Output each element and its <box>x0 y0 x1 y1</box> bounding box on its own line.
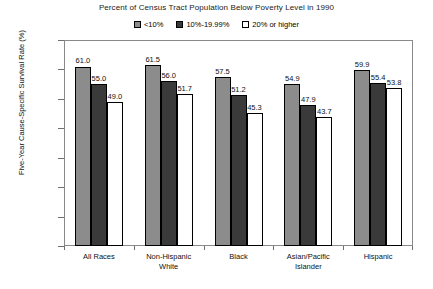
x-category-label-line: Asian/Pacific <box>269 252 347 262</box>
legend-label-20-or-higher: 20% or higher <box>252 20 299 29</box>
bar <box>284 84 300 246</box>
legend-item-20-or-higher: 20% or higher <box>242 20 299 29</box>
bar-value-label: 59.9 <box>349 60 375 69</box>
legend-label-10-to-19: 10%-19.99% <box>186 20 229 29</box>
x-category-label-line: Black <box>200 252 278 262</box>
bar-value-label: 45.3 <box>242 103 268 112</box>
bar-value-label: 51.2 <box>226 85 252 94</box>
bar-value-label: 54.9 <box>279 74 305 83</box>
x-category-label: Non-HispanicWhite <box>130 252 208 272</box>
bar <box>75 67 91 247</box>
x-tick-mark <box>204 246 205 250</box>
bar-value-label: 43.7 <box>311 107 337 116</box>
bar-value-label: 53.8 <box>381 78 407 87</box>
bar-group: 61.556.051.7 <box>145 40 193 246</box>
chart-legend: <10% 10%-19.99% 20% or higher <box>0 20 433 29</box>
bar <box>354 70 370 246</box>
x-axis-ticks <box>64 246 413 251</box>
bar <box>370 83 386 246</box>
bar <box>247 113 263 246</box>
bar <box>161 81 177 246</box>
bar <box>145 65 161 246</box>
bar <box>91 84 107 246</box>
bar-value-label: 56.0 <box>156 71 182 80</box>
bar-value-label: 57.5 <box>210 67 236 76</box>
legend-swatch-dark-icon <box>176 21 183 28</box>
x-category-label-line: All Races <box>60 252 138 262</box>
x-tick-mark <box>64 246 65 250</box>
bar-group: 61.055.049.0 <box>75 40 123 246</box>
bar-group: 57.551.245.3 <box>215 40 263 246</box>
bar-value-label: 61.5 <box>140 55 166 64</box>
bar-value-label: 51.7 <box>172 84 198 93</box>
x-tick-mark <box>273 246 274 250</box>
x-category-label: Hispanic <box>339 252 417 262</box>
x-category-label: Black <box>200 252 278 262</box>
bar-value-label: 49.0 <box>102 92 128 101</box>
chart-title: Percent of Census Tract Population Below… <box>0 3 433 13</box>
x-tick-mark <box>343 246 344 250</box>
x-category-label: Asian/PacificIslander <box>269 252 347 272</box>
x-category-label-line: Hispanic <box>339 252 417 262</box>
legend-item-under-10: <10% <box>134 20 163 29</box>
x-tick-mark <box>134 246 135 250</box>
legend-label-under-10: <10% <box>144 20 163 29</box>
x-category-label: All Races <box>60 252 138 262</box>
bar <box>177 94 193 246</box>
x-category-label-line: Non-Hispanic <box>130 252 208 262</box>
legend-swatch-white-icon <box>242 21 249 28</box>
bar <box>316 117 332 246</box>
bars-layer: 61.055.049.061.556.051.757.551.245.354.9… <box>64 40 413 246</box>
bar-value-label: 55.0 <box>86 74 112 83</box>
bar <box>231 95 247 246</box>
legend-swatch-light-icon <box>134 21 141 28</box>
y-axis-title: Five-Year Cause-Specific Survival Rate (… <box>17 0 26 206</box>
x-axis-labels: All RacesNon-HispanicWhiteBlackAsian/Pac… <box>64 252 413 282</box>
x-category-label-line: Islander <box>269 262 347 272</box>
bar-group: 59.955.453.8 <box>354 40 402 246</box>
x-category-label-line: White <box>130 262 208 272</box>
poverty-survival-bar-chart: Percent of Census Tract Population Below… <box>0 0 433 289</box>
x-tick-mark <box>412 246 413 250</box>
bar-value-label: 61.0 <box>70 56 96 65</box>
bar-group: 54.947.943.7 <box>284 40 332 246</box>
bar <box>386 88 402 246</box>
bar <box>107 102 123 246</box>
bar-value-label: 47.9 <box>295 95 321 104</box>
legend-item-10-to-19: 10%-19.99% <box>176 20 229 29</box>
bar <box>300 105 316 246</box>
bar <box>215 77 231 246</box>
